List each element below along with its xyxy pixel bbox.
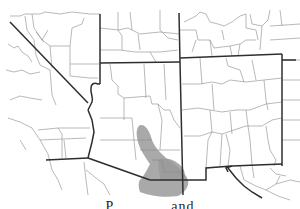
range-map	[0, 0, 300, 209]
species-range-shading	[137, 125, 189, 197]
map-caption: P... ...... ..and	[0, 199, 300, 209]
